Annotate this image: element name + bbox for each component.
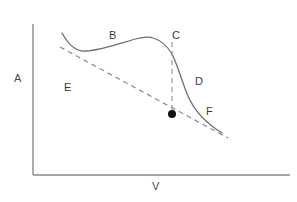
- curve-label-d: D: [195, 76, 203, 87]
- curve-label-c: C: [172, 30, 180, 41]
- marker-point: [168, 110, 176, 118]
- curve-label-b: B: [109, 30, 116, 41]
- curve-label-e: E: [64, 82, 71, 93]
- x-axis-label: V: [152, 181, 159, 192]
- y-axis-label: A: [14, 73, 21, 84]
- plot-svg: [0, 0, 297, 202]
- curve-label-f: F: [206, 106, 213, 117]
- common-tangent-dashed-line: [60, 47, 228, 138]
- figure-container: A V B C D E F: [0, 0, 297, 202]
